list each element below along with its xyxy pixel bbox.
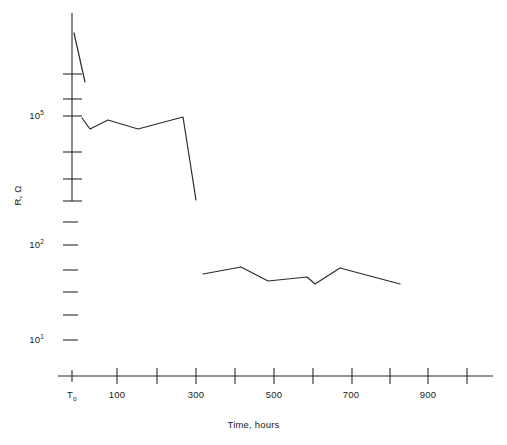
resistance-vs-time-chart: 105 102 101 To 100 300 500 700 900 Time,… — [0, 0, 507, 445]
x-tick-label-700: 700 — [328, 389, 374, 400]
x-tick-sub-o: o — [73, 395, 77, 402]
x-tick-label-t0: To — [49, 389, 95, 400]
plot-area — [0, 0, 507, 445]
y-axis-title: R, Ω — [12, 166, 23, 226]
y-tick-exp-2: 2 — [40, 238, 44, 245]
x-tick-label-900: 900 — [405, 389, 451, 400]
y-tick-label-1e2: 102 — [4, 239, 44, 250]
y-tick-exp-1: 1 — [40, 333, 44, 340]
x-axis-title: Time, hours — [0, 419, 507, 430]
y-tick-exp-5: 5 — [40, 109, 44, 116]
series-lower-resistance-trace — [203, 267, 400, 284]
series-initial-transient — [74, 33, 85, 82]
x-tick-label-100: 100 — [94, 389, 140, 400]
series-upper-resistance-trace — [82, 117, 196, 200]
x-tick-label-300: 300 — [173, 389, 219, 400]
y-axis-ticks-lower — [63, 222, 78, 340]
x-tick-label-500: 500 — [251, 389, 297, 400]
y-tick-label-1e1: 101 — [4, 334, 44, 345]
y-tick-label-1e5: 105 — [4, 110, 44, 121]
